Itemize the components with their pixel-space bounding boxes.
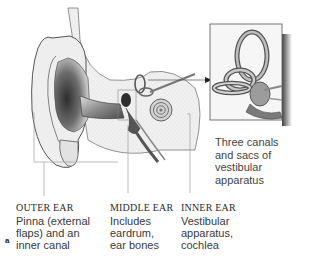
label-outer-ear: OUTER EAR Pinna (external flaps) and an … [16, 202, 90, 251]
eardrum [121, 93, 131, 107]
label-line: eardrum, [110, 227, 173, 239]
label-heading: OUTER EAR [16, 202, 90, 214]
inset-caption-line: and sacs of [215, 149, 279, 162]
label-middle-ear: MIDDLE EAR Includes eardrum, ear bones [110, 202, 173, 251]
label-line: Includes [110, 215, 173, 227]
inset-caption-line: apparatus [215, 174, 279, 187]
ear-anatomy-diagram: Three canals and sacs of vestibular appa… [0, 0, 310, 259]
label-line: inner canal [16, 239, 90, 251]
inset-caption: Three canals and sacs of vestibular appa… [215, 136, 279, 186]
label-line: Vestibular [181, 215, 236, 227]
inset-caption-line: Three canals [215, 136, 279, 149]
label-line: flaps) and an [16, 227, 90, 239]
inset-shadow [282, 34, 292, 126]
inset-caption-line: vestibular [215, 161, 279, 174]
panel-letter: a [5, 236, 9, 245]
label-line: apparatus, [181, 227, 236, 239]
label-heading: MIDDLE EAR [110, 202, 173, 214]
cochlea [150, 99, 172, 121]
label-line: cochlea [181, 239, 236, 251]
label-inner-ear: INNER EAR Vestibular apparatus, cochlea [181, 202, 236, 251]
label-line: ear bones [110, 239, 173, 251]
label-heading: INNER EAR [181, 202, 236, 214]
label-line: Pinna (external [16, 215, 90, 227]
